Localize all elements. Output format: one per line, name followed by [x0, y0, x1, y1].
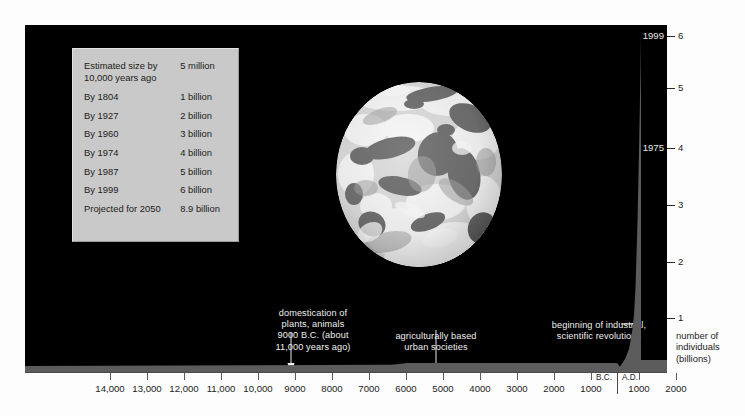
- year-marker-1975: 1975: [616, 143, 664, 153]
- x-tick-label: 12,000: [169, 383, 198, 394]
- x-tick: [295, 373, 296, 380]
- x-tick-label: 2000: [665, 383, 686, 394]
- x-tick-label: 7000: [358, 383, 379, 394]
- x-tick-label: 9000: [284, 383, 305, 394]
- year-marker-1999: 1999: [616, 31, 664, 41]
- era-divider-line: [617, 373, 618, 394]
- x-tick: [639, 373, 640, 380]
- x-tick-label: 13,000: [132, 383, 161, 394]
- x-tick-label: 11,000: [207, 383, 236, 394]
- x-tick: [258, 373, 259, 380]
- x-tick-label: 6000: [395, 383, 416, 394]
- x-tick: [184, 373, 185, 380]
- y-tick: [667, 148, 675, 149]
- x-tick: [406, 373, 407, 380]
- x-tick-label: 14,000: [95, 383, 124, 394]
- x-tick: [369, 373, 370, 380]
- x-tick-label: 1000: [628, 383, 649, 394]
- era-label-bc: B.C.: [596, 373, 612, 383]
- x-tick: [676, 373, 677, 380]
- y-tick-label: 1: [678, 313, 683, 323]
- x-tick-label: 10,000: [243, 383, 272, 394]
- x-tick: [480, 373, 481, 380]
- era-label-ad: A.D.: [622, 373, 638, 383]
- x-tick-label: 1000: [580, 383, 601, 394]
- plot-panel: domestication of plants, animals 9000 B.…: [25, 25, 667, 372]
- y-tick-label: 2: [678, 257, 683, 267]
- y-tick-label: 3: [678, 200, 683, 210]
- y-tick-label: 6: [678, 31, 683, 41]
- x-tick-label: 3000: [506, 383, 527, 394]
- x-tick: [332, 373, 333, 380]
- y-tick: [667, 318, 675, 319]
- x-tick: [554, 373, 555, 380]
- x-tick: [517, 373, 518, 380]
- x-axis-line: [25, 372, 667, 373]
- y-tick: [667, 88, 675, 89]
- x-tick-label: 5000: [432, 383, 453, 394]
- y-tick: [667, 205, 675, 206]
- x-tick-label: 8000: [321, 383, 342, 394]
- x-tick-label: 4000: [469, 383, 490, 394]
- x-tick: [443, 373, 444, 380]
- y-tick: [667, 262, 675, 263]
- x-tick: [221, 373, 222, 380]
- y-axis: 6 5 4 3 2 1: [667, 25, 707, 372]
- x-axis: 14,000 13,000 12,000 11,000 10,000 9000 …: [25, 372, 667, 416]
- y-axis-title: number of individuals (billions): [676, 330, 720, 364]
- x-tick-label: 2000: [543, 383, 564, 394]
- y-tick-label: 4: [678, 143, 683, 153]
- population-curve-area: [25, 25, 667, 372]
- x-tick: [110, 373, 111, 380]
- population-growth-figure: domestication of plants, animals 9000 B.…: [0, 0, 745, 416]
- y-tick-label: 5: [678, 83, 683, 93]
- y-tick: [667, 36, 675, 37]
- x-tick: [591, 373, 592, 380]
- x-tick: [147, 373, 148, 380]
